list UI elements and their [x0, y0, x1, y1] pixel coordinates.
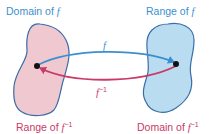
range-point	[173, 61, 179, 67]
label-text: Domain of	[6, 5, 57, 17]
label-arrow-f: f	[103, 39, 106, 52]
label-sup: −1	[64, 121, 72, 128]
label-range-of-f: Range of f	[146, 5, 194, 18]
label-arrow-f-inverse: f−1	[96, 84, 107, 99]
label-text: Range of	[146, 5, 192, 17]
label-var: f	[192, 6, 195, 17]
label-text: Domain of	[137, 121, 188, 133]
label-sup: −1	[191, 121, 199, 128]
label-range-of-f-inverse: Range of f−1	[16, 119, 72, 134]
label-domain-of-f: Domain of f	[6, 5, 60, 18]
label-sup: −1	[99, 86, 107, 93]
range-f-region	[143, 24, 194, 113]
label-var: f	[57, 6, 60, 17]
label-text: Range of	[16, 121, 62, 133]
label-domain-of-f-inverse: Domain of f−1	[137, 119, 199, 134]
domain-point	[34, 63, 40, 69]
label-var: f	[103, 40, 106, 51]
domain-f-region	[14, 24, 69, 116]
diagram-canvas	[0, 0, 209, 134]
